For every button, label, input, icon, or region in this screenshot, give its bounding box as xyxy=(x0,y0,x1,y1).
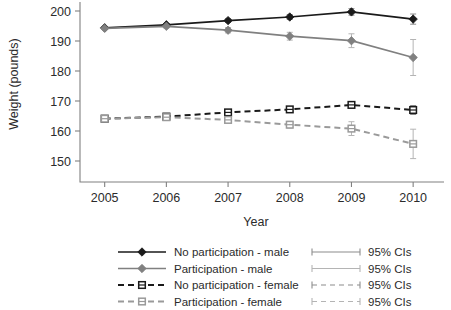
series-line-2 xyxy=(105,105,413,119)
series-0 xyxy=(100,8,417,32)
chart-legend: No participation - male95% CIsParticipat… xyxy=(118,246,412,308)
legend-ci-label-2: 95% CIs xyxy=(368,279,412,291)
series-line-3 xyxy=(105,117,413,144)
marker-diamond xyxy=(224,16,232,24)
series-1 xyxy=(100,22,417,62)
chart-figure: 1501601701801902002005200620072008200920… xyxy=(0,0,451,310)
legend-label-2: No participation - female xyxy=(174,279,299,291)
series-line-1 xyxy=(105,26,413,57)
y-axis-title: Weight (pounds) xyxy=(7,38,21,130)
legend-ci-label-3: 95% CIs xyxy=(368,296,412,308)
legend-ci-label-0: 95% CIs xyxy=(368,246,412,258)
marker-diamond xyxy=(286,13,294,21)
x-tick-label-2007: 2007 xyxy=(214,191,242,205)
x-tick-label-2009: 2009 xyxy=(338,191,366,205)
marker-diamond xyxy=(409,15,417,23)
x-tick-label-2006: 2006 xyxy=(152,191,180,205)
legend-ci-label-1: 95% CIs xyxy=(368,263,412,275)
marker-diamond xyxy=(286,32,294,40)
y-tick-label-200: 200 xyxy=(50,5,71,19)
y-tick-label-190: 190 xyxy=(50,35,71,49)
marker-diamond xyxy=(347,37,355,45)
weight-by-year-line-chart: 1501601701801902002005200620072008200920… xyxy=(0,0,451,310)
marker-diamond xyxy=(138,264,146,272)
legend-label-3: Participation - female xyxy=(174,296,282,308)
y-tick-label-180: 180 xyxy=(50,65,71,79)
y-tick-label-150: 150 xyxy=(50,155,71,169)
x-tick-label-2010: 2010 xyxy=(399,191,427,205)
y-tick-label-160: 160 xyxy=(50,125,71,139)
legend-item-1[interactable]: Participation - male95% CIs xyxy=(118,263,412,275)
axis-lines xyxy=(80,2,444,182)
legend-item-3[interactable]: Participation - female95% CIs xyxy=(118,296,412,308)
marker-diamond xyxy=(100,24,108,32)
x-tick-label-2008: 2008 xyxy=(276,191,304,205)
legend-label-0: No participation - male xyxy=(174,246,289,258)
legend-item-0[interactable]: No participation - male95% CIs xyxy=(118,246,412,258)
series-3 xyxy=(101,114,416,147)
x-tick-label-2005: 2005 xyxy=(91,191,119,205)
series-line-0 xyxy=(105,12,413,28)
legend-label-1: Participation - male xyxy=(174,263,272,275)
series-2 xyxy=(101,102,416,122)
x-axis-title: Year xyxy=(243,215,268,229)
marker-diamond xyxy=(138,248,146,256)
legend-item-2[interactable]: No participation - female95% CIs xyxy=(118,279,412,291)
y-tick-label-170: 170 xyxy=(50,95,71,109)
marker-diamond xyxy=(409,53,417,61)
